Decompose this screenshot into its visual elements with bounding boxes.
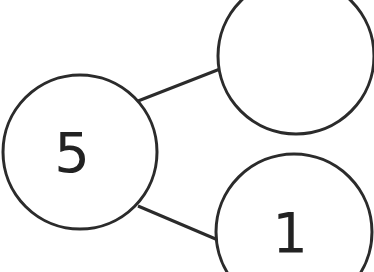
number-bond-diagram: 5 1	[0, 0, 374, 272]
whole-value: 5	[54, 120, 90, 185]
part-bottom-value: 1	[272, 200, 308, 265]
part-circle-top[interactable]	[218, 0, 374, 134]
whole-circle: 5	[3, 75, 157, 229]
connector-line-bottom	[138, 206, 218, 240]
connector-line-top	[138, 69, 220, 101]
part-circle-bottom: 1	[216, 154, 372, 272]
